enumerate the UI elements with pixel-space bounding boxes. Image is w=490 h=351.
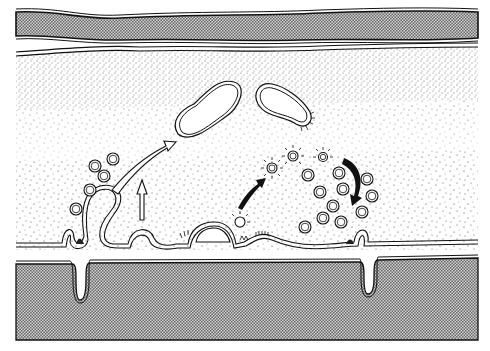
membrane-diagram xyxy=(0,0,490,351)
cytoplasm-layer xyxy=(16,43,478,250)
bottom-cell-layer xyxy=(16,255,478,340)
top-cell-layer xyxy=(16,8,478,44)
